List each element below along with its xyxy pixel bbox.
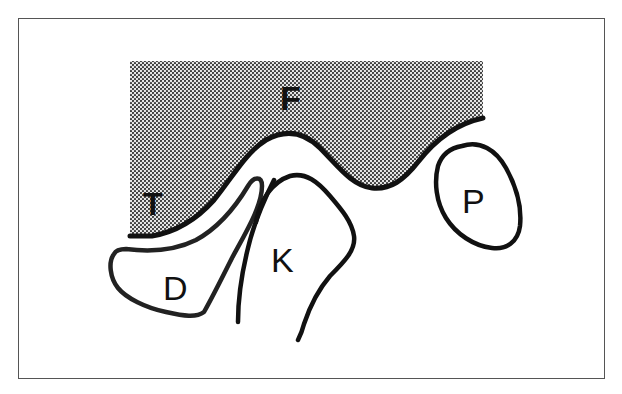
label-t: T [143, 186, 163, 222]
label-p: P [462, 182, 485, 220]
label-k: K [271, 241, 294, 279]
label-d: D [163, 269, 188, 307]
separator-curve [238, 180, 274, 322]
label-f: F [280, 79, 301, 117]
anatomical-diagram: F T D K P [0, 0, 622, 394]
